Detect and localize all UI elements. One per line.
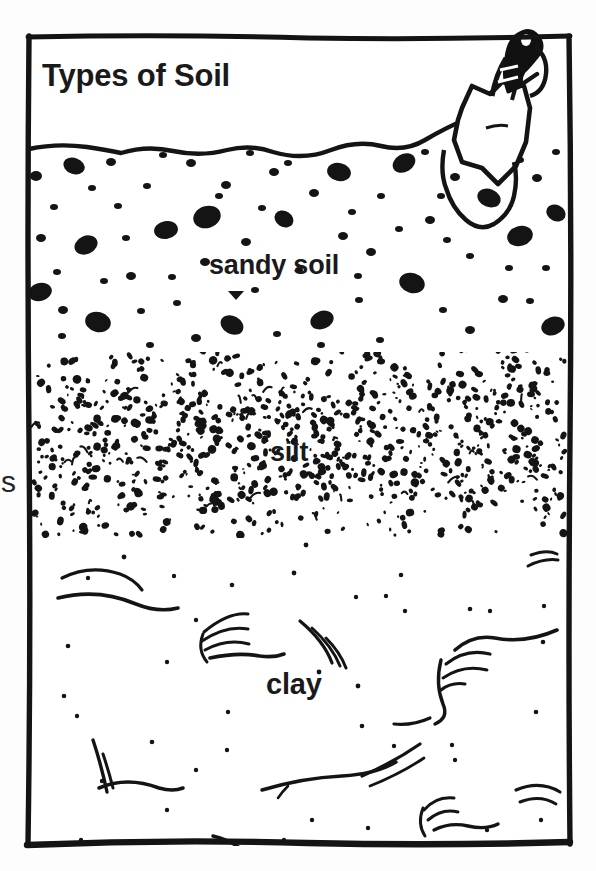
- illustration-canvas: [0, 0, 596, 871]
- layer-label-sandy-soil: sandy soil: [209, 250, 339, 281]
- soil-profile-figure: Types of Soil sandy soil silt clay s: [0, 0, 596, 871]
- layer-label-clay: clay: [266, 668, 322, 701]
- page-edge-letter: s: [1, 465, 16, 499]
- layer-label-silt: silt: [270, 437, 308, 468]
- page-title: Types of Soil: [42, 58, 230, 94]
